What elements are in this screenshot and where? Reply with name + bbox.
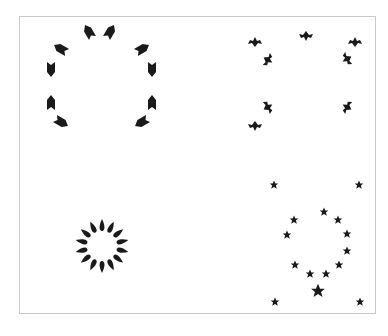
bird-icon	[339, 50, 355, 67]
arrow-tag-icon	[47, 95, 55, 110]
star-icon	[290, 216, 299, 224]
petal-icon	[75, 247, 88, 254]
petal-icon	[116, 238, 129, 245]
petal-icon	[79, 253, 91, 264]
petal-icon	[112, 227, 124, 238]
petal-icon	[106, 221, 116, 234]
arrow-tag-icon	[148, 62, 156, 77]
petal-icon	[75, 238, 88, 245]
arrow-tag-icon	[53, 115, 70, 129]
petal-icon	[116, 247, 129, 254]
petal-icon	[100, 219, 105, 231]
star-icon	[322, 270, 331, 278]
bird-icon	[248, 121, 262, 131]
bird-icon	[339, 98, 355, 115]
petal-icon	[112, 253, 124, 264]
arrow-tag-icon	[133, 115, 150, 129]
bird-icon	[299, 31, 313, 41]
bird-icon	[260, 98, 276, 115]
arrow-tag-icon	[134, 42, 151, 56]
star-icon	[311, 284, 325, 297]
bird-icon	[348, 37, 362, 47]
star-icon	[356, 298, 365, 306]
arrow-tag-icon	[148, 95, 156, 110]
petal-icon	[88, 221, 98, 234]
arrow-tag-icon	[82, 23, 96, 40]
bird-icon	[248, 37, 262, 47]
star-icon	[270, 181, 279, 189]
petal-icon	[106, 258, 116, 271]
star-icon	[343, 230, 352, 238]
star-icon	[335, 261, 344, 269]
petal-icon	[88, 258, 98, 271]
star-icon	[271, 298, 280, 306]
petal-icon	[79, 227, 91, 238]
star-icon	[355, 181, 364, 189]
petal-icon	[100, 261, 105, 273]
arrow-tag-icon	[47, 62, 55, 77]
star-icon	[320, 208, 329, 216]
star-icon	[343, 247, 352, 255]
glyph-canvas	[0, 0, 388, 336]
bird-icon	[260, 51, 276, 68]
arrow-tag-icon	[103, 23, 117, 40]
star-icon	[283, 231, 292, 239]
star-icon	[334, 216, 343, 224]
star-icon	[306, 270, 315, 278]
star-icon	[291, 261, 300, 269]
arrow-tag-icon	[52, 42, 69, 56]
